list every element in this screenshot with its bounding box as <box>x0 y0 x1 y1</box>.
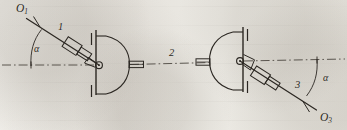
left-housing-arc <box>106 36 130 94</box>
link-label-1: 1 <box>58 22 63 33</box>
link-label-3: 3 <box>295 80 300 91</box>
right-housing-arc <box>210 32 234 90</box>
angle-label-alpha-left: α <box>34 44 39 54</box>
pivot-label-O1: O1 <box>16 3 28 15</box>
link-label-2: 2 <box>169 48 174 59</box>
technical-diagram-figure: O1 O3 1 2 3 α α <box>0 0 347 130</box>
angle-label-alpha-right: α <box>323 73 328 83</box>
right-rod-tip-upper-edge <box>244 55 255 60</box>
right-slider-sleeve <box>250 66 281 91</box>
mechanism-drawing <box>0 0 347 130</box>
centerline-right-segment <box>244 59 345 61</box>
left-assembly <box>27 17 144 98</box>
pivot-label-O3: O3 <box>320 112 332 124</box>
angle-arc-right <box>307 59 318 96</box>
left-pivot-joint-center <box>98 64 100 66</box>
right-assembly <box>196 27 317 112</box>
right-sleeve-outer-body <box>250 66 270 85</box>
right-pivot-joint-center <box>239 60 241 62</box>
